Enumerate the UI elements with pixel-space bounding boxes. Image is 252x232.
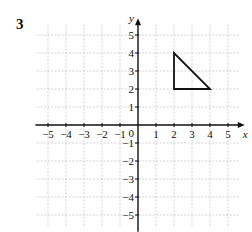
origin-label: 0 [129, 127, 135, 139]
x-tick-label: 2 [171, 128, 177, 140]
y-axis-arrow-icon [135, 18, 141, 25]
y-tick-label: −2 [122, 155, 134, 167]
y-tick-label: −4 [122, 191, 134, 203]
triangle-shape [174, 53, 210, 89]
y-tick-label: −5 [122, 209, 134, 221]
y-tick-label: 5 [129, 29, 135, 41]
x-tick-label: −2 [96, 128, 108, 140]
x-tick-label: −5 [42, 128, 54, 140]
x-tick-label: −3 [78, 128, 90, 140]
coordinate-grid: −5−4−3−2−11234554321−1−2−3−4−50xy [0, 0, 252, 232]
y-tick-label: 3 [129, 65, 135, 77]
x-tick-label: −4 [60, 128, 72, 140]
x-tick-label: 1 [153, 128, 159, 140]
y-axis-label: y [128, 12, 134, 24]
x-axis-label: x [242, 128, 248, 140]
x-tick-label: 3 [189, 128, 195, 140]
x-tick-label: 4 [207, 128, 213, 140]
y-tick-label: 1 [129, 101, 135, 113]
y-tick-label: 2 [129, 83, 135, 95]
x-tick-label: 5 [225, 128, 231, 140]
y-tick-label: 4 [129, 47, 135, 59]
y-tick-label: −3 [122, 173, 134, 185]
